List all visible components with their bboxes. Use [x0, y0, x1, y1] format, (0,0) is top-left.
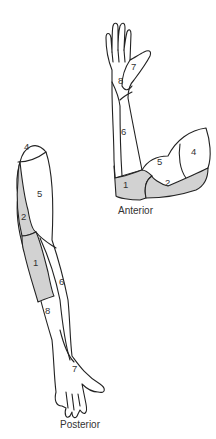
posterior-caption: Posterior — [60, 419, 101, 430]
posterior-label-7: 7 — [72, 363, 77, 374]
anterior-label-6: 6 — [121, 126, 126, 137]
anterior-caption: Anterior — [118, 205, 154, 216]
posterior-label-4: 4 — [24, 141, 29, 152]
anterior-label-8: 8 — [118, 75, 123, 86]
anterior-label-5: 5 — [157, 156, 162, 167]
posterior-label-2: 2 — [21, 211, 26, 222]
posterior-label-5: 5 — [37, 188, 42, 199]
anterior-label-1: 1 — [123, 179, 128, 190]
posterior-label-6: 6 — [59, 276, 64, 287]
anterior-arm — [106, 23, 210, 200]
posterior-label-1: 1 — [33, 257, 38, 268]
anterior-label-4: 4 — [191, 146, 196, 157]
posterior-label-8: 8 — [45, 305, 50, 316]
anterior-forearm-outline — [106, 23, 151, 178]
anterior-label-7: 7 — [131, 61, 136, 72]
dermatome-diagram: 7 8 6 5 4 1 2 Anterior 4 5 2 1 6 8 7 Pos — [0, 0, 216, 439]
anterior-label-2: 2 — [165, 177, 170, 188]
